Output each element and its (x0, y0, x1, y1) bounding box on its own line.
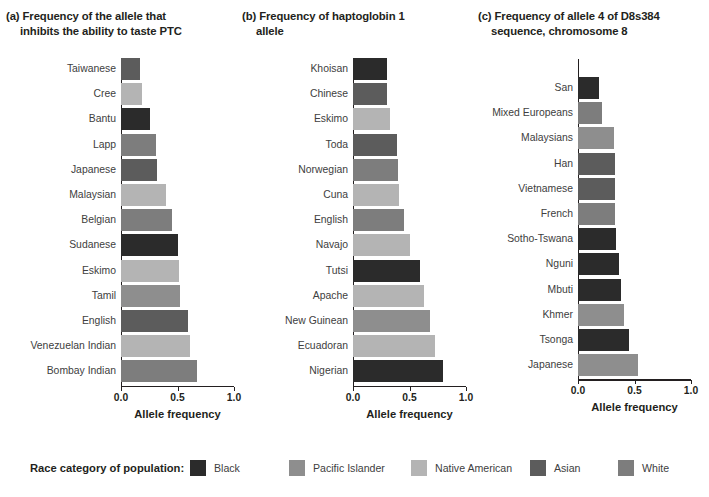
bar-row: French (578, 203, 691, 225)
bar-category-label: Malaysians (521, 127, 573, 149)
bar (578, 329, 629, 351)
legend-title: Race category of population: (30, 462, 184, 474)
bar-row: Tsonga (578, 329, 691, 351)
bar-row: San (578, 77, 691, 99)
x-axis-tick-label: 1.0 (459, 392, 473, 403)
bar-row: Malaysians (578, 127, 691, 149)
bar (121, 159, 157, 181)
x-axis-tick-label: 0.5 (402, 392, 416, 403)
bar-row: English (121, 310, 234, 332)
bar (353, 159, 398, 181)
panel-b-plot: KhoisanChineseEskimoTodaNorwegianCunaEng… (236, 0, 472, 440)
bar-row: Ecuadoran (353, 335, 466, 357)
bar-category-label: Sotho-Tswana (507, 228, 573, 250)
chart-panel-c: (c) Frequency of allele 4 of D8s384 sequ… (472, 0, 708, 440)
bar-row: English (353, 209, 466, 231)
x-axis-tick-label: 0.0 (114, 392, 128, 403)
x-axis-tick (635, 380, 636, 384)
x-axis-title: Allele frequency (134, 408, 220, 420)
bar-category-label: Bantu (89, 108, 116, 130)
bar (578, 279, 621, 301)
bar (578, 354, 638, 376)
bar-category-label: Mixed Europeans (492, 102, 573, 124)
bar-category-label: San (555, 77, 574, 99)
legend-item: Black (190, 459, 240, 477)
bar-row: Vietnamese (578, 178, 691, 200)
x-axis-title: Allele frequency (366, 408, 452, 420)
bar-category-label: Japanese (71, 159, 116, 181)
bar-category-label: English (82, 310, 116, 332)
bar-category-label: Belgian (81, 209, 116, 231)
bar-category-label: Malaysian (69, 184, 116, 206)
bar-category-label: Norwegian (298, 159, 348, 181)
bar (578, 153, 615, 175)
bar-row: Chinese (353, 83, 466, 105)
bar-category-label: Mbuti (548, 279, 573, 301)
bar-row: Toda (353, 134, 466, 156)
bar-row: Tutsi (353, 260, 466, 282)
allele-frequency-figure: (a) Frequency of the allele that inhibit… (0, 0, 709, 497)
x-axis-tick (178, 387, 179, 391)
bar-category-label: Tamil (92, 285, 116, 307)
bar-row: Khoisan (353, 58, 466, 80)
legend-label: Native American (435, 462, 512, 474)
bar (578, 102, 602, 124)
bar (121, 58, 140, 80)
bar-category-label: Venezuelan Indian (30, 335, 116, 357)
bar (353, 285, 424, 307)
x-axis-tick-label: 0.5 (627, 385, 641, 396)
legend-swatch-asian (530, 460, 546, 476)
bar-row: Cuna (353, 184, 466, 206)
bar-category-label: Ecuadoran (298, 335, 348, 357)
bar (353, 108, 390, 130)
bar-row: Malaysian (121, 184, 234, 206)
bar-row: Mixed Europeans (578, 102, 691, 124)
bar (121, 260, 179, 282)
x-axis-tick-label: 0.5 (170, 392, 184, 403)
bar-category-label: Taiwanese (67, 58, 116, 80)
bar-category-label: French (541, 203, 573, 225)
legend-swatch-white (618, 460, 634, 476)
bar (121, 134, 156, 156)
bar-category-label: Vietnamese (518, 178, 573, 200)
bar-category-label: Tsonga (539, 329, 573, 351)
bar-category-label: Tutsi (326, 260, 348, 282)
bar (578, 304, 624, 326)
legend-item: Pacific Islander (289, 459, 385, 477)
bar-row: Sudanese (121, 234, 234, 256)
legend-swatch-native-american (411, 460, 427, 476)
x-axis-tick (353, 387, 354, 391)
bar (353, 209, 404, 231)
x-axis-tick-label: 0.0 (571, 385, 585, 396)
bar-category-label: Apache (313, 285, 348, 307)
panel-c-plot: SanMixed EuropeansMalaysiansHanVietnames… (472, 0, 708, 440)
bar-row: Navajo (353, 234, 466, 256)
bar (353, 335, 435, 357)
bar (578, 253, 619, 275)
bar-row: Taiwanese (121, 58, 234, 80)
bar-category-label: Sudanese (69, 234, 116, 256)
bar-row: Cree (121, 83, 234, 105)
bar-category-label: Khoisan (310, 58, 348, 80)
bar (121, 310, 188, 332)
bar (121, 83, 142, 105)
x-axis-tick (121, 387, 122, 391)
bar-category-label: Han (554, 153, 573, 175)
legend-swatch-black (190, 460, 206, 476)
bar-row: Sotho-Tswana (578, 228, 691, 250)
bar-category-label: Eskimo (82, 260, 116, 282)
x-axis-tick (691, 380, 692, 384)
bar-row: Japanese (121, 159, 234, 181)
bar (353, 83, 387, 105)
bar (353, 310, 430, 332)
bar (121, 360, 197, 382)
bar-category-label: Eskimo (314, 108, 348, 130)
legend-item: Asian (530, 459, 581, 477)
bar-row: Apache (353, 285, 466, 307)
x-axis-tick-label: 0.0 (346, 392, 360, 403)
bar-category-label: Cree (93, 83, 116, 105)
bar-row: Eskimo (353, 108, 466, 130)
legend-item: White (618, 459, 669, 477)
bar-category-label: Cuna (323, 184, 348, 206)
bar-row: Bombay Indian (121, 360, 234, 382)
